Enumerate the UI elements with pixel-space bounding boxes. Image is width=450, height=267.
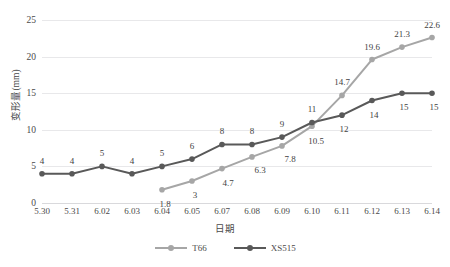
- data-point-t66: [189, 178, 195, 184]
- series-line-xs515: [42, 93, 432, 174]
- data-point-xs515: [159, 164, 165, 170]
- data-point-xs515: [369, 98, 375, 104]
- data-point-t66: [399, 44, 405, 50]
- chart-legend: T66XS515: [0, 243, 450, 253]
- data-point-xs515: [429, 90, 435, 96]
- data-label: 10.5: [308, 136, 324, 146]
- data-point-t66: [249, 154, 255, 160]
- data-label: 4: [40, 156, 45, 166]
- data-label: 6.3: [254, 165, 265, 175]
- data-label: 9: [280, 119, 285, 129]
- data-point-xs515: [69, 171, 75, 177]
- data-label: 3: [193, 190, 198, 200]
- y-axis-tick: 15: [10, 88, 36, 98]
- data-label: 19.6: [364, 42, 380, 52]
- data-point-t66: [159, 187, 165, 193]
- legend-marker-icon: [233, 243, 267, 253]
- data-label: 8: [220, 126, 225, 136]
- y-axis-tick: 10: [10, 125, 36, 135]
- data-label: 4.7: [222, 178, 233, 188]
- data-point-xs515: [219, 142, 225, 148]
- data-point-xs515: [39, 171, 45, 177]
- y-axis-tick: 25: [10, 15, 36, 25]
- data-point-t66: [369, 57, 375, 63]
- data-point-xs515: [339, 112, 345, 118]
- data-point-xs515: [249, 142, 255, 148]
- data-label: 12: [340, 124, 349, 134]
- data-label: 4: [70, 156, 75, 166]
- data-label: 22.6: [424, 20, 440, 30]
- data-label: 6: [190, 141, 195, 151]
- legend-label: XS515: [271, 243, 296, 253]
- line-chart: 变形量(mm) 0510152025 1.834.76.37.810.514.7…: [0, 0, 450, 267]
- plot-area: 1.834.76.37.810.514.719.621.322.64454568…: [42, 20, 432, 203]
- data-point-xs515: [309, 120, 315, 126]
- data-point-xs515: [399, 90, 405, 96]
- data-point-t66: [279, 143, 285, 149]
- gridline: [42, 203, 432, 204]
- x-axis-tick: 6.14: [409, 206, 450, 216]
- data-label: 14: [370, 110, 379, 120]
- data-label: 8: [250, 126, 255, 136]
- legend-item-t66[interactable]: T66: [154, 243, 207, 253]
- y-axis-tick: 20: [10, 52, 36, 62]
- data-point-t66: [339, 93, 345, 99]
- legend-label: T66: [192, 243, 207, 253]
- data-label: 15: [430, 102, 439, 112]
- data-label: 5: [160, 148, 165, 158]
- data-label: 15: [400, 102, 409, 112]
- series-line-t66: [162, 38, 432, 190]
- data-point-t66: [219, 166, 225, 172]
- data-point-xs515: [279, 134, 285, 140]
- data-label: 11: [308, 104, 317, 114]
- data-label: 14.7: [334, 77, 350, 87]
- legend-marker-icon: [154, 243, 188, 253]
- data-point-xs515: [189, 156, 195, 162]
- data-point-xs515: [129, 171, 135, 177]
- data-point-xs515: [99, 164, 105, 170]
- x-axis-title: 日期: [0, 221, 450, 235]
- y-axis-tick: 5: [10, 161, 36, 171]
- data-label: 7.8: [284, 154, 295, 164]
- data-label: 5: [100, 148, 105, 158]
- data-label: 4: [130, 156, 135, 166]
- legend-item-xs515[interactable]: XS515: [233, 243, 296, 253]
- data-point-t66: [429, 35, 435, 41]
- data-label: 21.3: [394, 29, 410, 39]
